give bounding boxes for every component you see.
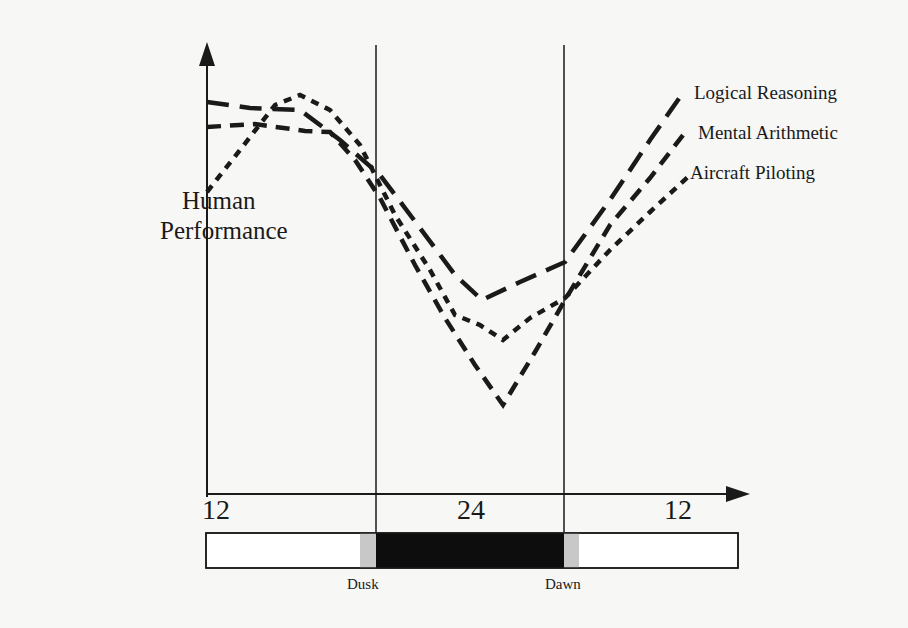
dawn-segment — [564, 533, 579, 568]
dusk-segment — [360, 533, 376, 568]
x-tick-right: 12 — [664, 494, 692, 526]
night-segment — [376, 533, 564, 568]
legend-aircraft-piloting: Aircraft Piloting — [690, 162, 815, 184]
x-axis-arrow-icon — [726, 486, 750, 502]
dusk-label: Dusk — [347, 576, 379, 593]
x-tick-left: 12 — [202, 494, 230, 526]
legend-logical-reasoning: Logical Reasoning — [694, 82, 837, 104]
x-tick-mid: 24 — [457, 494, 485, 526]
y-axis-arrow-icon — [199, 42, 215, 66]
y-axis-label-line2: Performance — [160, 216, 288, 246]
dawn-label: Dawn — [545, 576, 581, 593]
y-axis-label: Human Performance — [160, 186, 288, 246]
y-axis-label-line1: Human — [160, 186, 288, 216]
legend-mental-arithmetic: Mental Arithmetic — [698, 122, 838, 144]
